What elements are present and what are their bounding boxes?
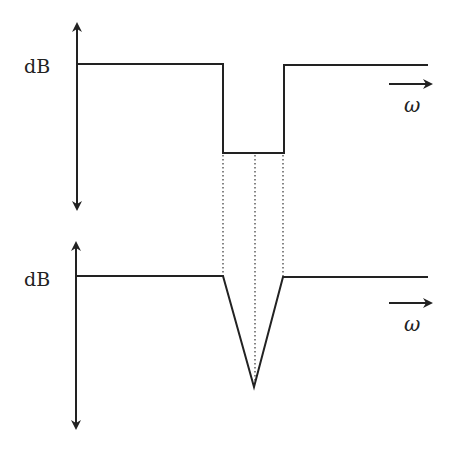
dotted-guides <box>223 155 283 383</box>
top-x-label: ω <box>404 93 420 117</box>
bottom-panel: dB ω <box>24 243 431 428</box>
bottom-x-label: ω <box>404 312 420 336</box>
top-panel: dB ω <box>24 24 431 209</box>
top-y-label: dB <box>24 55 50 77</box>
notch-filter-diagram: dB ω dB ω <box>0 0 452 452</box>
bottom-y-label: dB <box>24 268 50 290</box>
bottom-response-curve <box>76 276 428 387</box>
top-response-curve <box>77 64 428 153</box>
